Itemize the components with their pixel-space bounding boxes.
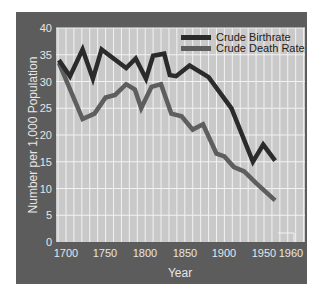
y-axis-title: Number per 1,000 Population bbox=[26, 57, 40, 214]
x-tick-label: 1850 bbox=[173, 247, 197, 259]
y-tick-label: 20 bbox=[40, 129, 52, 141]
y-tick-label: 10 bbox=[40, 183, 52, 195]
y-tick-label: 5 bbox=[46, 209, 52, 221]
legend-swatch-death-rate bbox=[181, 46, 211, 51]
x-tick-label: 1960 bbox=[279, 247, 303, 259]
y-axis-ticks: 0510152025303540 bbox=[40, 22, 52, 248]
x-axis-ticks: 1700175018001850190019501960 bbox=[54, 247, 303, 259]
x-tick-label: 1750 bbox=[93, 247, 117, 259]
x-tick-label: 1950 bbox=[252, 247, 276, 259]
y-tick-label: 0 bbox=[46, 236, 52, 248]
x-tick-label: 1800 bbox=[133, 247, 157, 259]
x-tick-label: 1700 bbox=[54, 247, 78, 259]
y-tick-label: 35 bbox=[40, 49, 52, 61]
x-tick-label: 1900 bbox=[212, 247, 236, 259]
y-tick-label: 30 bbox=[40, 76, 52, 88]
y-tick-label: 40 bbox=[40, 22, 52, 34]
legend-label-death-rate: Crude Death Rate bbox=[216, 42, 305, 54]
line-chart: 0510152025303540 17001750180018501900195… bbox=[0, 0, 324, 298]
legend-swatch-birthrate bbox=[181, 35, 211, 40]
x-axis-title: Year bbox=[168, 266, 192, 280]
y-tick-label: 25 bbox=[40, 102, 52, 114]
y-tick-label: 15 bbox=[40, 156, 52, 168]
